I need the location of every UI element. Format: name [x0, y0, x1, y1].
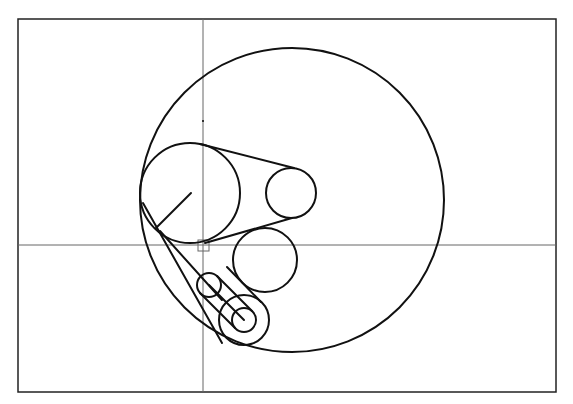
link-guide-line[interactable]: [227, 267, 261, 302]
drawing-frame: [18, 19, 556, 392]
link-line-center[interactable]: [209, 285, 244, 320]
link-line-left[interactable]: [200, 293, 235, 328]
large-pulley-radius-line[interactable]: [156, 193, 191, 228]
outer-circle[interactable]: [140, 48, 444, 352]
link-line-right[interactable]: [217, 276, 252, 311]
belt-top-line[interactable]: [200, 144, 294, 168]
drawing-canvas[interactable]: [0, 0, 573, 404]
origin-marker: [202, 120, 204, 122]
small-pulley[interactable]: [266, 168, 316, 218]
